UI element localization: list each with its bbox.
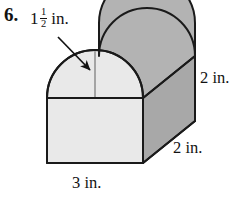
mixed-number: 1 1 2 bbox=[30, 7, 48, 29]
radius-unit: in. bbox=[51, 9, 68, 28]
front-rectangle-face bbox=[47, 98, 143, 163]
fraction: 1 2 bbox=[40, 7, 47, 29]
geometry-figure-container: 6. 1 1 2 in. 2 in. 2 in. 3 in. bbox=[0, 0, 246, 199]
depth-dimension-label: 2 in. bbox=[173, 140, 202, 157]
problem-number: 6. bbox=[4, 5, 18, 24]
fraction-numerator: 1 bbox=[40, 7, 47, 18]
arch-prism-diagram bbox=[0, 0, 246, 199]
whole-part: 1 bbox=[30, 10, 39, 27]
fraction-denominator: 2 bbox=[40, 19, 47, 30]
radius-dimension-label: 1 1 2 in. bbox=[30, 7, 69, 29]
width-dimension-label: 3 in. bbox=[72, 175, 101, 192]
height-dimension-label: 2 in. bbox=[200, 70, 229, 87]
